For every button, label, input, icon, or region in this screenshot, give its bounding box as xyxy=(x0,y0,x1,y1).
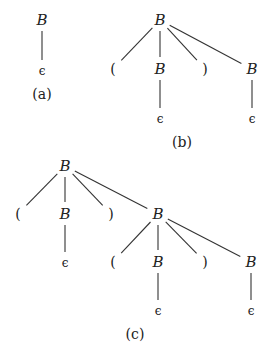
nonterminal-node: B xyxy=(35,11,47,29)
subfigure-label: (a) xyxy=(32,86,51,102)
tree-edge xyxy=(121,222,150,253)
tree-nodes: BϵB(B)BϵϵB(B)Bϵ(B)Bϵϵ xyxy=(15,11,257,318)
epsilon-node: ϵ xyxy=(248,304,255,318)
parse-tree-diagram: BϵB(B)BϵϵB(B)Bϵ(B)Bϵϵ (a)(b)(c) xyxy=(0,0,268,359)
epsilon-node: ϵ xyxy=(39,64,46,78)
tree-edge xyxy=(26,174,57,206)
nonterminal-node: B xyxy=(153,11,165,29)
nonterminal-node: B xyxy=(58,157,70,175)
epsilon-node: ϵ xyxy=(249,112,256,126)
epsilon-node: ϵ xyxy=(62,256,69,270)
nonterminal-node: B xyxy=(153,60,165,78)
tree-edge xyxy=(167,28,197,60)
subfigure-label: (c) xyxy=(126,326,145,342)
nonterminal-node: B xyxy=(245,60,257,78)
terminal-node: ) xyxy=(108,206,113,222)
epsilon-node: ϵ xyxy=(155,304,162,318)
terminal-node: ) xyxy=(202,61,207,77)
nonterminal-node: B xyxy=(151,253,163,271)
nonterminal-node: B xyxy=(151,205,163,223)
tree-edge xyxy=(73,174,103,205)
tree-edge xyxy=(121,28,152,60)
terminal-node: ( xyxy=(110,254,115,270)
epsilon-node: ϵ xyxy=(157,112,164,126)
nonterminal-node: B xyxy=(58,205,70,223)
subfigure-label: (b) xyxy=(172,134,192,150)
tree-edge xyxy=(168,219,241,257)
tree-edge xyxy=(75,171,148,209)
tree-edge xyxy=(166,222,197,254)
terminal-node: ) xyxy=(202,254,207,270)
terminal-node: ( xyxy=(15,206,20,222)
terminal-node: ( xyxy=(110,61,115,77)
nonterminal-node: B xyxy=(244,253,256,271)
tree-edge xyxy=(170,25,242,63)
